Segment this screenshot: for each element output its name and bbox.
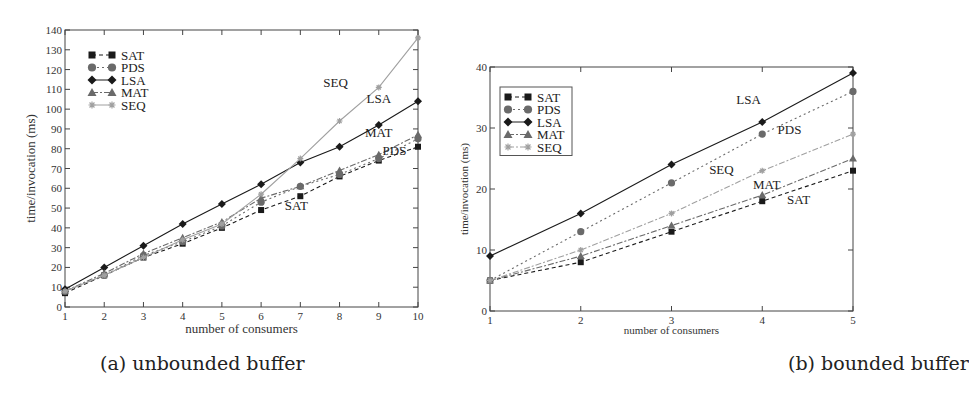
annotation-mat: MAT <box>365 125 393 140</box>
series-line <box>65 139 418 291</box>
y-tick-label: 10 <box>476 244 488 256</box>
diamond-marker <box>257 180 265 188</box>
chart-a-plot: 0102030405060708090100110120130140123456… <box>0 0 440 350</box>
y-tick-label: 40 <box>51 222 63 234</box>
triangle-marker <box>758 191 766 198</box>
x-tick-label: 4 <box>760 314 766 326</box>
x-tick-label: 1 <box>487 314 493 326</box>
square-marker <box>505 94 512 101</box>
star-marker <box>101 272 107 278</box>
square-marker <box>850 168 856 174</box>
chart-unbounded-buffer: 0102030405060708090100110120130140123456… <box>0 0 440 405</box>
x-axis-label: number of consumers <box>624 324 719 336</box>
circle-marker <box>88 63 96 71</box>
annotation-sat: SAT <box>787 192 810 207</box>
annotation-pds: PDS <box>778 122 802 137</box>
x-tick-label: 3 <box>141 310 147 322</box>
circle-marker <box>504 105 512 113</box>
square-marker <box>578 259 584 265</box>
x-tick-label: 10 <box>413 310 425 322</box>
y-tick-label: 30 <box>476 122 488 134</box>
star-marker <box>487 278 493 284</box>
diamond-marker <box>108 76 117 85</box>
series-line <box>65 135 418 291</box>
star-marker <box>669 210 675 216</box>
diamond-marker <box>336 143 344 151</box>
diamond-marker <box>139 242 147 250</box>
series-mat <box>486 155 857 284</box>
x-axis: 12345678910 <box>62 30 424 322</box>
star-marker <box>109 102 116 109</box>
star-marker <box>258 191 264 197</box>
square-marker <box>415 144 421 150</box>
series-sat <box>62 144 421 296</box>
y-tick-label: 30 <box>51 242 63 254</box>
star-marker <box>140 255 146 261</box>
diamond-marker <box>88 76 97 85</box>
x-tick-label: 5 <box>850 314 856 326</box>
y-tick-label: 40 <box>476 61 488 73</box>
annotation-seq: SEQ <box>323 75 348 90</box>
y-tick-label: 120 <box>46 64 63 76</box>
circle-marker <box>524 105 532 113</box>
diamond-marker <box>668 161 676 169</box>
star-marker <box>759 168 765 174</box>
star-marker <box>62 288 68 294</box>
circle-marker <box>759 131 766 138</box>
annotation-mat: MAT <box>753 177 781 192</box>
diamond-marker <box>849 69 857 77</box>
star-marker <box>337 118 343 124</box>
annotation-sat: SAT <box>285 198 308 213</box>
annotation-lsa: LSA <box>366 91 391 106</box>
x-tick-label: 8 <box>337 310 343 322</box>
circle-marker <box>108 63 116 71</box>
star-marker <box>578 247 584 253</box>
x-tick-label: 7 <box>298 310 304 322</box>
y-axis-label: time/invocation (ms) <box>458 143 471 235</box>
caption-unbounded-buffer: (a) unbounded buffer <box>100 352 305 374</box>
circle-marker <box>577 228 584 235</box>
y-tick-label: 20 <box>476 183 488 195</box>
diamond-marker <box>414 97 422 105</box>
annotation-lsa: LSA <box>736 92 761 107</box>
star-marker <box>850 131 856 137</box>
square-marker <box>525 94 532 101</box>
y-axis: 0102030405060708090100110120130140 <box>46 24 419 313</box>
legend-label: SEQ <box>537 140 562 155</box>
annotation-seq: SEQ <box>709 162 734 177</box>
series-mat <box>61 131 422 294</box>
legend: SATPDSLSAMATSEQ <box>88 48 149 113</box>
square-marker <box>669 229 675 235</box>
triangle-marker <box>336 166 344 173</box>
series-line <box>490 134 853 280</box>
caption-bounded-buffer: (b) bounded buffer <box>788 352 969 374</box>
diamond-marker <box>486 252 494 260</box>
y-tick-label: 100 <box>46 103 63 115</box>
diamond-marker <box>758 118 766 126</box>
y-tick-label: 60 <box>51 182 63 194</box>
y-tick-label: 80 <box>51 143 63 155</box>
x-tick-label: 1 <box>62 310 68 322</box>
star-marker <box>297 156 303 162</box>
legend-label: SEQ <box>121 98 146 113</box>
star-marker <box>525 144 532 151</box>
chart-b-plot: 01020304012345number of consumerstime/in… <box>448 0 888 350</box>
star-marker <box>376 84 382 90</box>
square-marker <box>89 52 96 59</box>
star-marker <box>219 221 225 227</box>
legend-item-seq: SEQ <box>89 98 147 113</box>
star-marker <box>89 102 96 109</box>
plot-frame <box>65 30 418 307</box>
x-axis-label: number of consumers <box>185 321 298 336</box>
y-tick-label: 110 <box>46 83 63 95</box>
annotations: SEQLSAMATPDSSAT <box>285 75 407 213</box>
y-tick-label: 10 <box>51 281 63 293</box>
circle-marker <box>668 179 675 186</box>
circle-marker <box>849 88 856 95</box>
annotation-pds: PDS <box>383 143 407 158</box>
square-marker <box>258 207 264 213</box>
triangle-marker <box>849 155 857 162</box>
x-tick-label: 9 <box>376 310 382 322</box>
y-tick-label: 130 <box>46 44 63 56</box>
diamond-marker <box>179 220 187 228</box>
